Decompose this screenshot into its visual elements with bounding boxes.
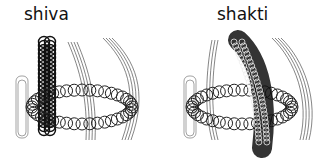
shakti-illustration (160, 0, 321, 159)
shiva-illustration (0, 0, 160, 159)
